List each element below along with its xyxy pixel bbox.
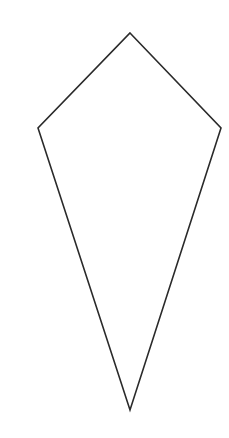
diagram-canvas bbox=[0, 0, 229, 438]
kite-diagram bbox=[0, 0, 229, 438]
kite-polygon bbox=[38, 33, 221, 410]
